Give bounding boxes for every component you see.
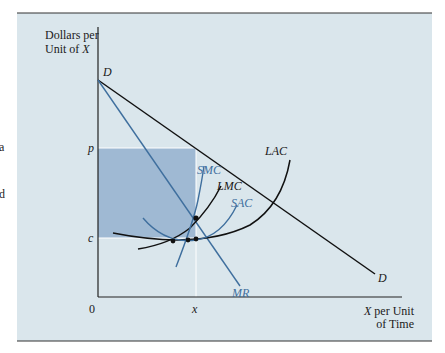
origin-label: 0 [89,302,95,316]
monopoly-cost-diagram: Dollars per Unit of X X per Unit of Time… [0,0,445,353]
price-p-label: p [87,141,94,155]
lmc-label: LMC [216,179,243,193]
quantity-x-label: x [191,302,198,316]
profit-shaded-region [98,148,196,238]
y-axis-label-line2: Unit of X [45,42,90,56]
lac-label: LAC [264,144,288,158]
diagram-panel [17,13,432,341]
smc-label: SMC [197,163,222,177]
mr-label: MR [231,286,250,300]
cost-c-label: c [88,231,94,245]
demand-bottom-label: D [377,271,387,285]
x-axis-label-line1: X per Unit [363,304,415,318]
x-axis-label-line2: of Time [376,317,414,331]
mr-lmc-smc-intersection-point [193,215,198,220]
y-axis-label-line1: Dollars per [45,28,99,42]
demand-top-label: D [102,65,112,79]
sac-output-point [194,237,199,242]
sac-lac-tangency-point [186,238,191,243]
lac-lmc-point [171,239,176,244]
sac-label: SAC [231,196,253,210]
